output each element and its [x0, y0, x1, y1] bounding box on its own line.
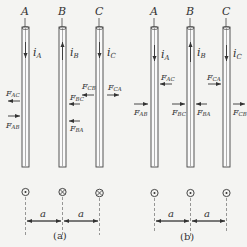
force-fcb: FCB — [81, 82, 96, 95]
conductor-label: B — [57, 5, 66, 18]
svg-text:FCB: FCB — [232, 108, 247, 117]
svg-text:FBA: FBA — [69, 124, 84, 133]
spacing-label: a — [204, 208, 210, 219]
force-fba: FBA — [69, 121, 84, 133]
force-fca: FCA — [107, 83, 122, 95]
conductor-b: B iB — [185, 5, 206, 238]
svg-text:FBC: FBC — [171, 108, 187, 117]
current-label: iA — [161, 48, 170, 62]
svg-text:FAC: FAC — [160, 73, 176, 82]
conductor-c: C iC — [95, 5, 117, 235]
conductor-label: A — [20, 5, 29, 18]
svg-text:FCA: FCA — [206, 73, 221, 82]
conductor-a: A iA — [149, 5, 170, 232]
svg-text:FAC: FAC — [5, 89, 21, 98]
force-fca: FCA — [206, 73, 221, 84]
svg-text:FBC: FBC — [69, 93, 85, 102]
svg-text:FAB: FAB — [133, 108, 148, 117]
current-label: iC — [233, 47, 243, 61]
svg-text:FBA: FBA — [196, 108, 211, 117]
panel-caption: (a) — [53, 230, 67, 241]
panel-b: A iA B iB C — [133, 5, 247, 242]
force-fac: FAC — [160, 73, 176, 84]
force-fac: FAC — [5, 89, 21, 101]
conductor-c: C iC — [222, 5, 243, 232]
svg-text:FCA: FCA — [107, 83, 122, 92]
spacing-label: a — [168, 208, 174, 219]
conductor-a: A iA — [20, 5, 42, 235]
current-label: iB — [197, 46, 206, 60]
panel-a: A iA B iB C — [5, 5, 122, 241]
current-label: iA — [33, 46, 42, 60]
force-fab: FAB — [133, 104, 148, 117]
conductor-label: A — [149, 5, 158, 18]
conductor-label: B — [185, 5, 194, 18]
svg-text:FAB: FAB — [5, 121, 20, 130]
force-fbc: FBC — [171, 104, 187, 117]
conductor-force-diagram: A iA B iB C — [0, 0, 247, 247]
current-label: iC — [107, 46, 117, 60]
panel-caption: (b) — [180, 231, 194, 242]
svg-text:FCB: FCB — [81, 82, 96, 91]
spacing-label: a — [78, 208, 84, 219]
conductor-b: B iB — [57, 5, 79, 235]
conductor-label: C — [95, 5, 104, 18]
force-fba: FBA — [196, 104, 211, 117]
spacing-label: a — [40, 208, 46, 219]
force-fcb: FCB — [232, 104, 247, 117]
current-label: iB — [70, 46, 79, 60]
conductor-label: C — [222, 5, 231, 18]
force-fab: FAB — [5, 116, 20, 130]
